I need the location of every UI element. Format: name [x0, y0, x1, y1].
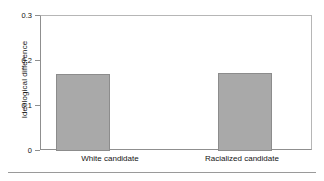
bar-chart-figure: Ideological difference 0.3 0.2 0.1 0 Whi… — [0, 0, 324, 181]
bar-racialized-candidate[interactable] — [218, 73, 272, 151]
x-axis-label-racialized-candidate: Racialized candidate — [188, 155, 296, 163]
y-tick-label-0: 0 — [0, 147, 32, 155]
y-tick-mark-0 — [35, 150, 40, 151]
plot-area — [40, 15, 312, 150]
y-tick-label-0.1: 0.1 — [0, 102, 32, 110]
y-axis-title: Ideological difference — [20, 10, 29, 150]
bottom-divider — [8, 172, 316, 173]
x-axis-label-white-candidate: White candidate — [56, 155, 164, 163]
bar-white-candidate[interactable] — [56, 74, 110, 151]
y-tick-label-0.3: 0.3 — [0, 12, 32, 20]
y-tick-label-0.2: 0.2 — [0, 57, 32, 65]
